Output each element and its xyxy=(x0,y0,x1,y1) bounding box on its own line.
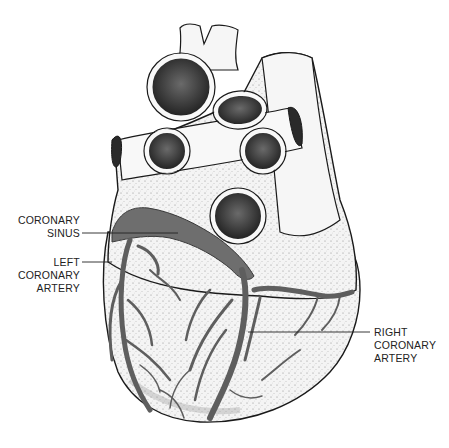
label-coronary-sinus-line1: CORONARY xyxy=(2,214,80,227)
label-right-coronary-artery-line3: ARTERY xyxy=(374,352,449,365)
label-right-coronary-artery-line2: CORONARY xyxy=(374,339,449,352)
label-left-coronary-artery-line3: ARTERY xyxy=(2,282,80,295)
label-left-coronary-artery-line1: LEFT xyxy=(2,256,80,269)
label-left-coronary-artery-line2: CORONARY xyxy=(2,269,80,282)
label-right-coronary-artery: RIGHT CORONARY ARTERY xyxy=(374,326,449,365)
label-right-coronary-artery-line1: RIGHT xyxy=(374,326,449,339)
label-left-coronary-artery: LEFT CORONARY ARTERY xyxy=(2,256,80,295)
label-coronary-sinus: CORONARY SINUS xyxy=(2,214,80,240)
label-coronary-sinus-line2: SINUS xyxy=(2,227,80,240)
